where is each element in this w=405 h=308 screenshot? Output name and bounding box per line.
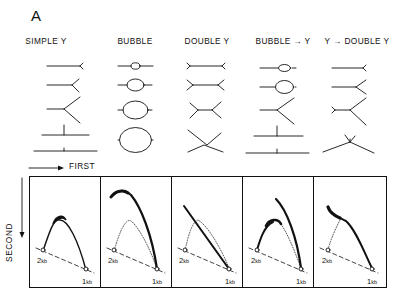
marker-1kb-panel-1: 1kb (82, 277, 92, 286)
marker-1kb-panel-5: 1kb (367, 277, 377, 286)
marker-2kb-panel-3: 2kb (179, 256, 189, 265)
marker-2kb-panel-5: 2kb (322, 256, 332, 265)
marker-1kb-panel-2: 1kb (152, 277, 162, 286)
first-axis-label: FIRST (69, 161, 95, 171)
y-to-double-y-diagrams (323, 65, 374, 153)
bubble-diagrams (118, 63, 153, 153)
marker-unit: kb (326, 258, 332, 264)
plot-panels-frame (30, 177, 387, 288)
marker-unit: kb (371, 279, 377, 285)
marker-1kb-panel-3: 1kb (225, 277, 235, 286)
marker-unit: kb (41, 258, 47, 264)
marker-unit: kb (86, 279, 92, 285)
marker-unit: kb (255, 258, 261, 264)
marker-2kb-panel-2: 2kb (108, 256, 118, 265)
marker-2kb-panel-4: 2kb (251, 256, 261, 265)
marker-unit: kb (183, 258, 189, 264)
first-axis-arrow (29, 166, 64, 171)
marker-unit: kb (300, 279, 306, 285)
marker-unit: kb (112, 258, 118, 264)
second-axis-label: SECOND (4, 223, 14, 262)
bubble-to-y-diagrams (246, 65, 309, 154)
marker-unit: kb (156, 279, 162, 285)
second-axis-arrow (20, 178, 25, 238)
figure-drawing (0, 0, 405, 308)
marker-1kb-panel-4: 1kb (296, 277, 306, 286)
marker-unit: kb (229, 279, 235, 285)
double-y-diagrams (187, 63, 225, 152)
simple-y-diagrams (34, 63, 97, 151)
marker-2kb-panel-1: 2kb (37, 256, 47, 265)
